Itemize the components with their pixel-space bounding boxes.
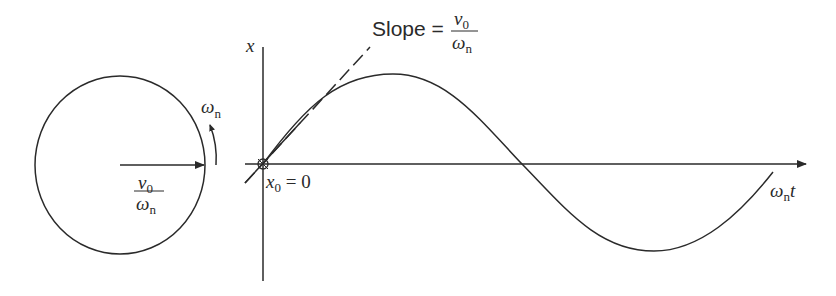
plot-axes: [245, 47, 806, 281]
origin-label: x0 = 0: [265, 171, 311, 195]
svg-text:ωn: ωn: [136, 193, 156, 217]
svg-text:ωn: ωn: [452, 32, 472, 56]
slope-label: Slope = ν0 ωn: [372, 8, 478, 56]
phase-circle-and-sine-diagram: ωn ν0 ωn x x0 = 0 ωnt Slope = ν0 ωn: [0, 0, 836, 296]
rotation-label: ωn: [201, 96, 221, 121]
rotation-arrow-icon: [210, 125, 216, 165]
y-axis-label: x: [245, 35, 255, 56]
radius-label: ν0 ωn: [134, 172, 164, 217]
x-axis-label: ωnt: [770, 180, 796, 204]
svg-text:ν0: ν0: [454, 8, 469, 32]
sine-curve: [263, 74, 773, 251]
rotating-phasor-circle: ωn ν0 ωn: [35, 76, 221, 254]
svg-text:Slope =: Slope =: [372, 17, 444, 40]
